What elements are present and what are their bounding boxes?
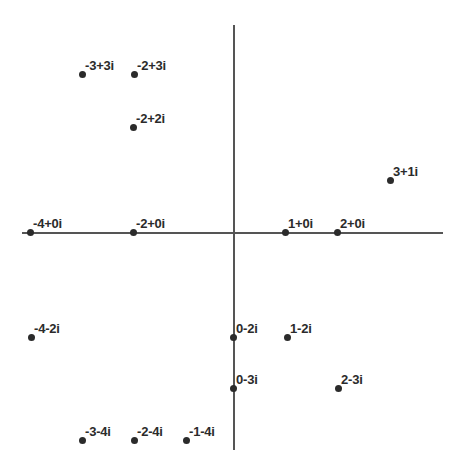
data-point-label: 1-2i: [290, 322, 312, 335]
data-point-label: -4+0i: [33, 217, 62, 230]
data-point-label: 0-2i: [236, 322, 258, 335]
data-point-label: -2+0i: [136, 217, 165, 230]
data-point-label: 2-3i: [341, 373, 363, 386]
data-point-label: 2+0i: [340, 217, 365, 230]
data-point-label: -3+3i: [85, 59, 114, 72]
data-point-label: -3-4i: [85, 425, 111, 438]
data-point-label: -2-4i: [137, 425, 163, 438]
data-point-label: -2+2i: [136, 112, 165, 125]
complex-plane-plot: -3+3i-2+3i-2+2i3+1i-4+0i-2+0i1+0i2+0i-4-…: [0, 0, 460, 473]
data-point-label: 0-3i: [236, 373, 258, 386]
data-point-label: -4-2i: [34, 322, 60, 335]
data-point-label: -2+3i: [137, 59, 166, 72]
data-point-label: 1+0i: [288, 217, 313, 230]
data-point-label: -1-4i: [189, 425, 215, 438]
data-point-label: 3+1i: [393, 165, 418, 178]
